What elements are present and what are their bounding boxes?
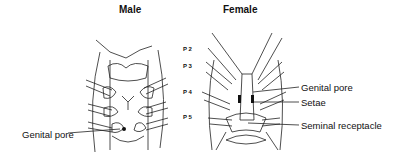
- male-ventral-drawing: [86, 40, 168, 152]
- female-genital-pore-leader: [253, 87, 299, 92]
- female-ventral-drawing: [202, 33, 286, 150]
- female-setae-right: [251, 95, 254, 103]
- male-genital-pore: [122, 127, 126, 131]
- female-setae-left: [238, 95, 241, 103]
- crayfish-ventral-drawings: [0, 0, 403, 163]
